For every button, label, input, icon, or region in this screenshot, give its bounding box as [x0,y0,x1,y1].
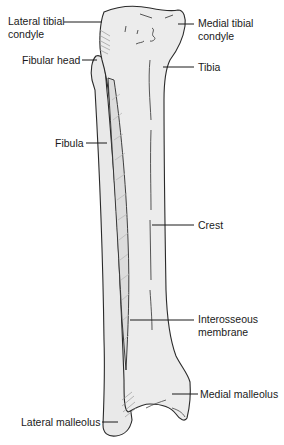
bone-illustration [0,0,284,445]
label-medial-malleolus: Medial malleolus [200,388,278,401]
label-lateral-tibial-condyle: Lateral tibial condyle [8,15,65,40]
label-fibular-head: Fibular head [22,54,80,67]
label-crest: Crest [198,219,223,232]
tibia-fibula-diagram: Lateral tibial condyle Medial tibial con… [0,0,284,445]
label-tibia: Tibia [198,61,220,74]
label-fibula: Fibula [55,137,84,150]
label-interosseous-membrane: Interosseous membrane [198,313,258,338]
label-lateral-malleolus: Lateral malleolus [21,416,100,429]
label-medial-tibial-condyle: Medial tibial condyle [198,17,253,42]
